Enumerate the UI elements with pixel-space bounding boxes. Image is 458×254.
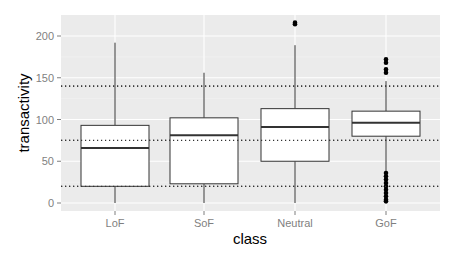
y-tick-label: 200 [36,30,54,42]
y-tick-label: 150 [36,72,54,84]
boxplot-chart: 050100150200 LoFSoFNeutralGoF class tran… [0,0,458,254]
y-tick-label: 0 [48,197,54,209]
outlier-point [384,199,389,204]
y-tick-label: 50 [42,155,54,167]
x-axis: LoFSoFNeutralGoF [106,211,397,229]
x-axis-title: class [233,230,267,247]
iqr-box [261,109,329,162]
outlier-point [384,70,389,75]
x-tick-label: LoF [106,217,125,229]
iqr-box [170,118,238,184]
y-tick-label: 100 [36,114,54,126]
y-axis-title: transactivity [15,73,32,153]
x-tick-label: Neutral [277,217,312,229]
outlier-point [293,20,298,25]
outlier-point [384,60,389,65]
y-axis: 050100150200 [36,30,61,209]
iqr-box [81,125,149,186]
x-tick-label: GoF [375,217,397,229]
x-tick-label: SoF [194,217,214,229]
